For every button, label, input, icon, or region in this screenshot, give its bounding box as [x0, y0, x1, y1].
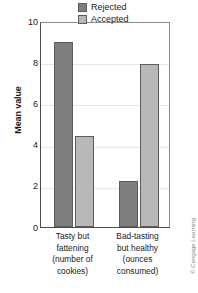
y-axis-tick-10: 10	[22, 18, 38, 27]
chart-legend: RejectedAccepted	[78, 3, 129, 24]
x-category-line: (ounces	[105, 254, 170, 266]
legend-item-accepted: Accepted	[78, 15, 129, 24]
legend-label: Rejected	[91, 3, 127, 12]
legend-item-rejected: Rejected	[78, 3, 129, 12]
bar-rejected-cat0	[54, 42, 73, 227]
x-category-line: consumed)	[105, 266, 170, 278]
y-axis-tick-8: 8	[22, 59, 38, 68]
x-category-label-1: Bad-tastingbut healthy(ouncesconsumed)	[105, 231, 170, 277]
bar-chart-figure: Mean value 1086420 RejectedAccepted Tast…	[0, 0, 198, 293]
legend-swatch-icon	[78, 15, 87, 24]
bar-rejected-cat1	[119, 181, 138, 227]
x-axis-category-labels: Tasty butfattening(number ofcookies)Bad-…	[40, 231, 170, 277]
x-category-line: cookies)	[40, 266, 105, 278]
x-category-line: (number of	[40, 254, 105, 266]
plot-area	[40, 22, 170, 228]
y-axis-tick-2: 2	[22, 182, 38, 191]
legend-label: Accepted	[91, 15, 129, 24]
x-category-label-0: Tasty butfattening(number ofcookies)	[40, 231, 105, 277]
x-category-line: fattening	[40, 243, 105, 255]
y-axis-tick-0: 0	[22, 224, 38, 233]
x-category-line: Tasty but	[40, 231, 105, 243]
bar-accepted-cat0	[75, 136, 94, 227]
y-axis-tick-6: 6	[22, 100, 38, 109]
x-category-line: Bad-tasting	[105, 231, 170, 243]
y-axis-tick-labels: 1086420	[20, 0, 38, 293]
x-category-line: but healthy	[105, 243, 170, 255]
bar-accepted-cat1	[140, 64, 159, 227]
copyright-credit: © Cengage Learning	[190, 206, 196, 286]
y-axis-tick-4: 4	[22, 141, 38, 150]
legend-swatch-icon	[78, 3, 87, 12]
